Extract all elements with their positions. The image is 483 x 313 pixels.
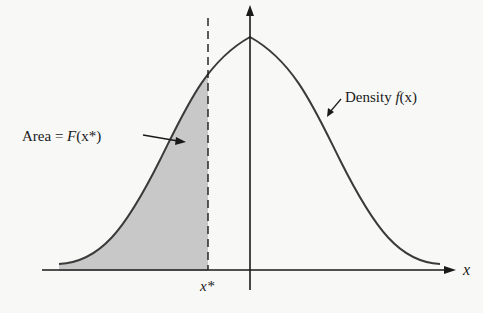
density-label: Density f(x): [345, 89, 417, 106]
density-pointer-line: [330, 99, 341, 112]
area-label: Area = F(x*): [22, 128, 101, 145]
density-cdf-diagram: Area = F(x*) Density f(x) x* x: [0, 0, 483, 313]
diagram-canvas: Area = F(x*) Density f(x) x* x: [0, 0, 483, 313]
x-axis-label: x: [462, 261, 470, 278]
x-axis-arrowhead-icon: [444, 266, 456, 274]
y-axis-arrowhead-icon: [246, 5, 254, 16]
x-star-label: x*: [199, 278, 215, 294]
